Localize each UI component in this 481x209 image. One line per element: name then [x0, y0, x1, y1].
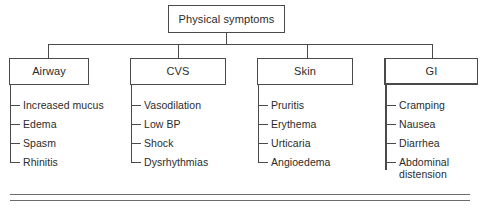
- connector-bus: [48, 44, 433, 45]
- leaf-tick: [11, 124, 20, 125]
- connector-drop-gi: [432, 44, 433, 58]
- node-physical-symptoms-label: Physical symptoms: [179, 13, 275, 26]
- spine-gi: [385, 85, 387, 170]
- diagram-canvas: Physical symptoms Airway Increased mucus…: [0, 0, 481, 209]
- node-gi-label: GI: [426, 65, 438, 78]
- node-cvs-label: CVS: [167, 65, 190, 78]
- node-gi: GI: [384, 58, 478, 85]
- list-item: Spasm: [23, 137, 56, 149]
- leaf-tick: [259, 143, 268, 144]
- leaf-tick: [132, 143, 141, 144]
- leaf-tick: [132, 105, 141, 106]
- list-item: Abdominal distension: [399, 156, 461, 180]
- list-item: Vasodilation: [144, 99, 201, 111]
- leaf-tick: [132, 124, 141, 125]
- leaf-tick: [387, 162, 396, 163]
- leaf-tick: [11, 162, 20, 163]
- list-item: Erythema: [271, 118, 316, 130]
- connector-drop-airway: [48, 44, 49, 58]
- list-item: Shock: [144, 137, 173, 149]
- leaf-tick: [11, 105, 20, 106]
- list-item: Angioedema: [271, 156, 330, 168]
- leaf-tick: [387, 143, 396, 144]
- footer-rule-top: [10, 194, 470, 195]
- leaf-tick: [259, 124, 268, 125]
- list-item: Increased mucus: [23, 99, 104, 111]
- leaf-tick: [259, 162, 268, 163]
- list-item: Dysrhythmias: [144, 156, 208, 168]
- list-item: Pruritis: [271, 99, 304, 111]
- list-item: Urticaria: [271, 137, 311, 149]
- connector-drop-cvs: [178, 44, 179, 58]
- node-airway-label: Airway: [32, 65, 66, 78]
- list-item: Diarrhea: [399, 137, 440, 149]
- node-skin-label: Skin: [294, 65, 316, 78]
- list-item: Rhinitis: [23, 156, 58, 168]
- node-airway: Airway: [9, 58, 89, 85]
- node-physical-symptoms: Physical symptoms: [168, 5, 285, 33]
- list-item: Nausea: [399, 118, 436, 130]
- connector-drop-skin: [307, 44, 308, 58]
- node-cvs: CVS: [130, 58, 226, 85]
- list-item: Cramping: [399, 99, 445, 111]
- leaf-tick: [259, 105, 268, 106]
- leaf-tick: [132, 162, 141, 163]
- footer-rule-bottom: [10, 200, 470, 201]
- list-item: Low BP: [144, 118, 181, 130]
- leaf-tick: [11, 143, 20, 144]
- leaf-tick: [387, 124, 396, 125]
- node-skin: Skin: [257, 58, 353, 85]
- leaf-tick: [387, 105, 396, 106]
- list-item: Edema: [23, 118, 57, 130]
- connector-root-stem: [226, 33, 227, 44]
